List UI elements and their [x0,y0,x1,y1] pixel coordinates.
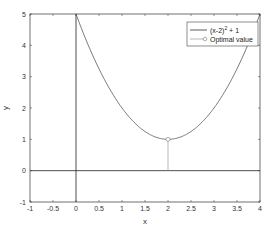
x-tick-label: -1 [27,205,33,212]
x-tick-label: 3 [212,205,216,212]
y-tick-label: 3 [22,73,26,80]
x-tick-label: 4 [258,205,262,212]
y-tick-label: 2 [22,105,26,112]
x-tick-label: 1.5 [140,205,150,212]
x-tick-label: 2.5 [186,205,196,212]
x-tick-label: 0 [74,205,78,212]
optimal-marker [166,137,170,141]
x-tick-label: 3.5 [232,205,242,212]
y-tick-label: 1 [22,136,26,143]
x-tick-label: 0.5 [94,205,104,212]
y-tick-label: 0 [22,167,26,174]
chart: -1-0.500.511.522.533.54-1012345 x y (x-2… [0,0,270,232]
x-axis-label: x [143,217,147,226]
y-tick-label: 5 [22,11,26,18]
y-tick-label: -1 [20,199,26,206]
y-tick-label: 4 [22,42,26,49]
x-tick-label: 2 [166,205,170,212]
legend-circle-marker-icon [203,37,207,41]
x-tick-label: -0.5 [47,205,59,212]
x-tick-label: 1 [120,205,124,212]
y-axis-label: y [1,106,10,110]
legend-entry-optimal: Optimal value [210,36,253,44]
legend: (x-2)2 + 1 Optimal value [187,22,258,46]
